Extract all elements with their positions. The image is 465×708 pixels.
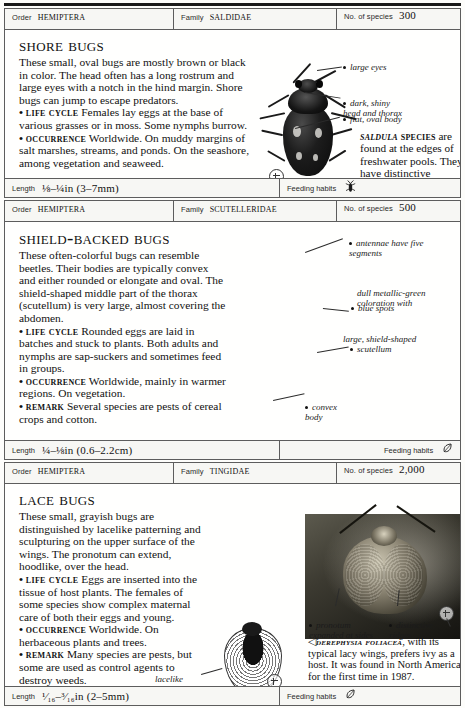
family-label: Family	[181, 467, 204, 476]
annotation-dot-icon	[350, 348, 353, 351]
caption-genus: DEREPHYSIA FOLIACEA	[316, 636, 402, 647]
annotation-flat-oval-body: flat, oval body	[343, 114, 402, 124]
species-count-label: No. of species	[344, 12, 393, 21]
feeding-habits-label: Feeding habits	[384, 446, 433, 455]
order-label: Order	[12, 205, 32, 214]
magnifier-icon	[269, 169, 284, 178]
family-label: Family	[181, 205, 204, 214]
annotation-dot-icon	[343, 102, 346, 105]
entry-header: Order HEMIPTERA Family SALDIDAE No. of s…	[5, 9, 460, 30]
description-intro: These often-colorful bugs can resemble b…	[19, 249, 225, 324]
feeding-habits-cell: Feeding habits	[280, 179, 460, 197]
description-paragraph: These small, grayish bugs are distinguis…	[19, 510, 201, 686]
annotation-dot-icon	[343, 66, 346, 69]
entry-footer: Length ¼–⅛in (0.6–2.2cm) Feeding habits	[5, 440, 460, 459]
predator-icon	[345, 179, 356, 197]
family-label: Family	[181, 13, 204, 22]
head-shape	[242, 622, 262, 636]
species-count-value: 2,000	[399, 463, 425, 475]
life-cycle-bullet: •	[19, 106, 26, 118]
abdomen-shape	[283, 104, 333, 176]
annotation-dot-icon	[389, 624, 392, 627]
caption-marker-icon: ◁	[308, 636, 316, 647]
length-label: Length	[12, 446, 35, 455]
annotation-lacelike-wings: lacelike wings	[155, 664, 183, 686]
entry-card-lace-bugs: Order HEMIPTERA Family TINGIDAE No. of s…	[4, 462, 461, 706]
description-intro: These small, oval bugs are mostly brown …	[19, 56, 246, 106]
occurrence-bullet: •	[19, 623, 26, 635]
feeding-habits-cell: Feeding habits	[280, 687, 460, 705]
annotation-text: scutellum	[357, 344, 392, 354]
family-cell: Family TINGIDAE	[174, 463, 337, 483]
entry-text-column: SHORE BUGS These small, oval bugs are mo…	[19, 35, 249, 169]
species-count-cell: No. of species 300	[337, 9, 460, 29]
species-count-value: 500	[399, 201, 416, 213]
family-value: SCUTELLERIDAE	[210, 201, 277, 216]
annotation-antennae-five-segments: antennae have five segments	[349, 228, 423, 258]
leaf-icon	[345, 687, 356, 705]
annotation-blue-spots: blue spots	[351, 303, 394, 313]
annotation-dot-icon	[349, 242, 352, 245]
life-cycle-label: LIFE CYCLE	[26, 325, 79, 337]
species-count-cell: No. of species 2,000	[337, 463, 460, 483]
entry-footer: Length ¹⁄₁₆–³⁄₁₆in (2–5mm) Feeding habit…	[5, 686, 460, 705]
length-cell: Length ¼–⅛in (0.6–2.2cm)	[5, 441, 280, 459]
annotation-text: flat, oval body	[350, 114, 402, 124]
length-value: ⅛–¼in (3–7mm)	[42, 182, 119, 194]
entry-header: Order HEMIPTERA Family SCUTELLERIDAE No.…	[5, 201, 460, 222]
occurrence-bullet: •	[19, 132, 26, 144]
annotation-dot-icon	[343, 118, 346, 121]
page-top-rule	[4, 3, 461, 6]
order-label: Order	[12, 13, 32, 22]
entry-footer: Length ⅛–¼in (3–7mm) Feeding habits	[5, 178, 460, 197]
annotation-dot-icon	[305, 406, 308, 409]
family-cell: Family SCUTELLERIDAE	[174, 201, 337, 221]
order-cell: Order HEMIPTERA	[5, 201, 174, 221]
occurrence-bullet: •	[19, 375, 26, 387]
remark-bullet: •	[19, 400, 26, 412]
feeding-habits-label: Feeding habits	[287, 692, 336, 701]
feeding-habits-label: Feeding habits	[287, 184, 336, 193]
life-cycle-label: LIFE CYCLE	[26, 106, 79, 118]
order-cell: Order HEMIPTERA	[5, 463, 174, 483]
length-label: Length	[12, 184, 35, 193]
leaf-icon	[442, 441, 453, 459]
entry-card-shield-backed-bugs: Order HEMIPTERA Family SCUTELLERIDAE No.…	[4, 200, 461, 460]
species-count-cell: No. of species 500	[337, 201, 460, 221]
life-cycle-bullet: •	[19, 573, 26, 585]
page-title-shield-backed-bugs: SHIELD-BACKED BUGS	[19, 228, 227, 248]
entry-body: SHIELD-BACKED BUGS These often-colorful …	[5, 222, 460, 440]
specimen-drawing-lace-bug	[210, 622, 298, 686]
caption-saldula-species: SALDULA SPECIES are found at the edges o…	[360, 130, 460, 178]
annotation-text: convex body	[305, 402, 337, 422]
occurrence-label: OCCURRENCE	[26, 132, 86, 144]
species-count-label: No. of species	[344, 204, 393, 213]
annotation-dot-icon	[309, 624, 312, 627]
feeding-habits-cell: Feeding habits	[280, 441, 460, 459]
order-label: Order	[12, 467, 32, 476]
page-title-shore-bugs: SHORE BUGS	[19, 35, 249, 55]
order-value: HEMIPTERA	[38, 9, 86, 24]
length-cell: Length ⅛–¼in (3–7mm)	[5, 179, 280, 197]
family-value: SALDIDAE	[210, 9, 252, 24]
entry-body: LACE BUGS These small, grayish bugs are …	[5, 484, 460, 686]
order-value: HEMIPTERA	[38, 463, 86, 478]
page-title-lace-bugs: LACE BUGS	[19, 489, 201, 509]
entry-text-column: LACE BUGS These small, grayish bugs are …	[19, 489, 201, 686]
description-paragraph: These often-colorful bugs can resemble b…	[19, 249, 227, 425]
field-guide-page: Order HEMIPTERA Family SALDIDAE No. of s…	[0, 0, 465, 708]
remark-bullet: •	[19, 648, 26, 660]
entry-body: SHORE BUGS These small, oval bugs are mo…	[5, 30, 460, 178]
family-value: TINGIDAE	[210, 463, 250, 478]
annotation-large-shield-shaped: large, shield-shaped	[343, 334, 416, 344]
life-cycle-label: LIFE CYCLE	[26, 573, 79, 585]
leader-line	[317, 346, 349, 353]
life-cycle-bullet: •	[19, 325, 26, 337]
magnifier-icon	[267, 674, 282, 686]
occurrence-label: OCCURRENCE	[26, 375, 86, 387]
description-paragraph: These small, oval bugs are mostly brown …	[19, 56, 249, 169]
species-count-value: 300	[399, 9, 416, 21]
annotation-text: lacelike wings	[155, 674, 183, 686]
leader-line	[305, 238, 343, 253]
order-value: HEMIPTERA	[38, 201, 86, 216]
